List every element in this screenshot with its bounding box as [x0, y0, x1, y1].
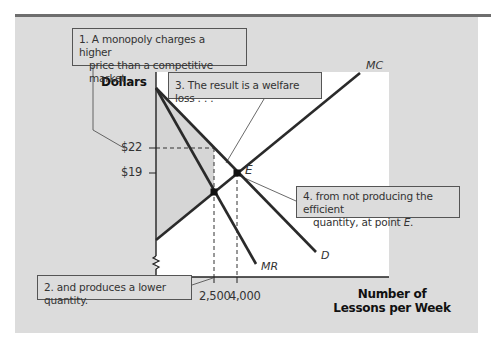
callout-4: 4. from not producing the efficient quan…	[296, 186, 460, 218]
mr-label: MR	[261, 260, 278, 273]
x-tick-label-2500: 2,500	[199, 289, 230, 303]
callout-2-leader	[192, 278, 213, 285]
d-label: D	[321, 249, 329, 262]
callout-3-leader	[226, 99, 264, 163]
efficient-point-e	[234, 170, 241, 177]
x-tick-label-4000: 4,000	[229, 289, 260, 303]
callout-4-line2: quantity, at point E.	[303, 216, 453, 229]
callout-4-period: .	[410, 216, 413, 228]
callout-4-leader	[240, 176, 296, 201]
mc-label: MC	[366, 59, 383, 72]
x-axis-title: Number of Lessons per Week	[330, 287, 454, 315]
e-label: E	[245, 163, 253, 177]
callout-4-line2-text: quantity, at point	[313, 216, 404, 228]
callout-1: 1. A monopoly charges a higher price tha…	[72, 28, 247, 66]
x-axis-title-line2: Lessons per Week	[330, 301, 454, 315]
callout-2: 2. and produces a lower quantity.	[37, 275, 192, 300]
callout-4-line1: 4. from not producing the efficient	[303, 190, 433, 215]
y-tick-label-22: $22	[121, 140, 142, 154]
callout-1-line1: 1. A monopoly charges a higher	[79, 33, 205, 58]
monopoly-point	[211, 189, 218, 196]
x-axis-title-line1: Number of	[330, 287, 454, 301]
y-tick-label-19: $19	[121, 165, 142, 179]
callout-3: 3. The result is a welfare loss . . .	[168, 72, 322, 99]
y-axis-break	[153, 256, 159, 269]
